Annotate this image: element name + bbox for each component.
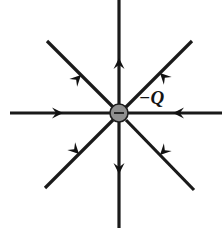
field-line-northwest — [47, 41, 113, 107]
field-line-northwest-arrowhead-icon — [69, 71, 85, 87]
field-diagram-figure: −Q — [0, 0, 222, 229]
field-line-northeast-arrowhead-icon — [156, 69, 172, 85]
point-charge — [110, 104, 128, 122]
charge-label: −Q — [139, 87, 165, 108]
field-line-southwest-arrowhead-icon — [67, 142, 83, 158]
field-line-southeast — [126, 120, 194, 190]
electric-field-diagram: −Q — [0, 0, 222, 229]
